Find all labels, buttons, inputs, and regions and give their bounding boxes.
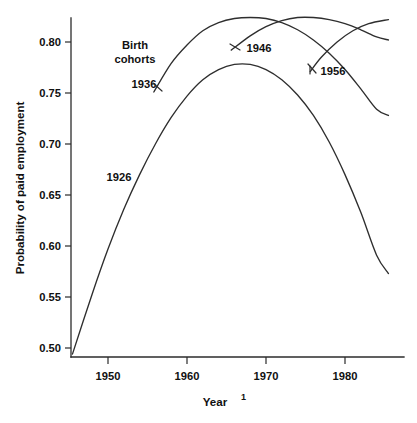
x-axis-title-footnote: 1	[241, 392, 246, 402]
x-axis-ticks	[108, 357, 345, 364]
x-tick-label-2: 1970	[254, 370, 279, 382]
y-axis-title: Probability of paid employment	[13, 102, 26, 275]
x-tick-label-0: 1950	[96, 370, 121, 382]
y-axis-tick-labels: 0.50 0.55 0.60 0.65 0.70 0.75 0.80	[39, 36, 61, 354]
series-label-1956: 1956	[321, 65, 346, 77]
y-tick-label-5: 0.75	[39, 87, 61, 99]
legend-title-line1: Birth	[122, 39, 148, 51]
y-tick-label-3: 0.65	[39, 189, 61, 201]
legend-birth-cohorts: Birth cohorts	[114, 39, 155, 65]
y-tick-label-6: 0.80	[39, 36, 61, 48]
y-tick-label-2: 0.60	[39, 240, 61, 252]
x-axis-title: Year	[203, 395, 228, 408]
chart-figure: 0.50 0.55 0.60 0.65 0.70 0.75 0.80 1950 …	[0, 0, 417, 423]
chart-canvas: 0.50 0.55 0.60 0.65 0.70 0.75 0.80 1950 …	[0, 0, 417, 423]
x-tick-label-3: 1980	[333, 370, 358, 382]
x-axis-tick-labels: 1950 1960 1970 1980	[96, 370, 358, 382]
legend-title-line2: cohorts	[114, 53, 155, 65]
y-tick-label-4: 0.70	[39, 138, 61, 150]
y-axis-ticks	[65, 42, 71, 348]
series-label-1936: 1936	[132, 78, 157, 90]
curve-1926	[72, 64, 388, 354]
y-tick-label-1: 0.55	[39, 291, 61, 303]
y-tick-label-0: 0.50	[39, 342, 61, 354]
series-label-1926: 1926	[107, 171, 132, 183]
x-tick-label-1: 1960	[175, 370, 200, 382]
curve-1956	[310, 20, 388, 72]
series-label-1946: 1946	[247, 42, 272, 54]
curve-1936	[154, 18, 389, 116]
